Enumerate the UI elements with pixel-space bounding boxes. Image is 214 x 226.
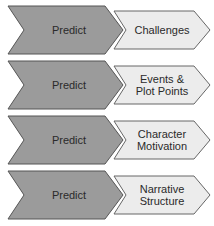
events-plot-points-label: Events & Plot Points [124, 65, 200, 105]
predict-label: Predict [24, 115, 114, 165]
diagram-row-1: Predict Challenges [0, 5, 214, 55]
predict-label: Predict [24, 170, 114, 220]
predict-label: Predict [24, 5, 114, 55]
diagram-row-4: Predict Narrative Structure [0, 170, 214, 220]
diagram-row-2: Predict Events & Plot Points [0, 60, 214, 110]
challenges-label: Challenges [124, 10, 200, 50]
character-motivation-label: Character Motivation [124, 120, 200, 160]
narrative-structure-label: Narrative Structure [124, 175, 200, 215]
diagram-row-3: Predict Character Motivation [0, 115, 214, 165]
predict-label: Predict [24, 60, 114, 110]
